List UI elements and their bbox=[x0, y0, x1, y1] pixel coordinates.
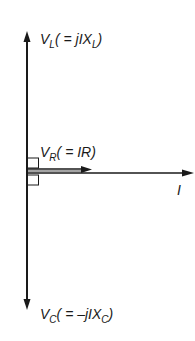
vc-label: VC( = –jIXC) bbox=[40, 306, 113, 325]
i-label: I bbox=[177, 182, 181, 198]
vl-label: VL( = jIXL) bbox=[40, 31, 102, 50]
vr-arrowhead-icon bbox=[81, 166, 92, 173]
vl-arrowhead-icon bbox=[24, 31, 31, 42]
vc-arrowhead-icon bbox=[24, 299, 31, 310]
i-arrowhead-icon bbox=[182, 170, 194, 177]
phasor-diagram: VL( = jIXL) VR( = IR) I VC( = –jIXC) bbox=[0, 0, 195, 341]
right-angle-marker-upper bbox=[28, 158, 39, 168]
vr-label: VR( = IR) bbox=[40, 144, 96, 163]
right-angle-marker-lower bbox=[28, 175, 39, 185]
